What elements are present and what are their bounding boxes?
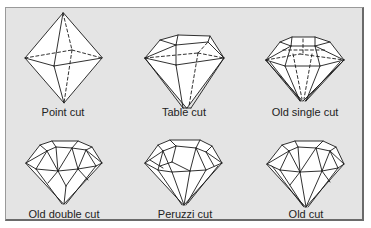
point-cut-icon <box>25 13 102 103</box>
label-point-cut: Point cut <box>42 106 85 118</box>
old-single-cut-icon <box>266 37 344 101</box>
label-old-cut: Old cut <box>289 208 324 220</box>
label-old-double-cut: Old double cut <box>29 208 100 220</box>
label-peruzzi-cut: Peruzzi cut <box>158 208 212 220</box>
peruzzi-cut-icon <box>145 140 222 205</box>
label-table-cut: Table cut <box>162 106 206 118</box>
label-old-single-cut: Old single cut <box>272 106 339 118</box>
old-double-cut-icon <box>26 141 102 204</box>
old-cut-icon <box>267 141 344 207</box>
table-cut-icon <box>145 35 224 108</box>
